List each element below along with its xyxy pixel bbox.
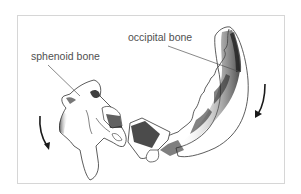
sphenoid-leader-line [48,65,80,96]
sphenoid-bone [59,80,126,180]
occipital-bone-label: occipital bone [128,32,192,43]
sphenoid-bone-label: sphenoid bone [31,51,100,62]
skull-base-diagram [0,0,301,194]
rotation-arrow-left-icon [40,116,50,150]
rotation-arrow-right-icon [255,84,265,118]
occipital-bone [128,27,248,162]
